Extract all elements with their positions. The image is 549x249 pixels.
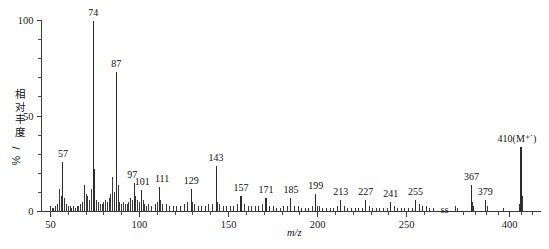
y-axis-title-char: 相 bbox=[15, 88, 25, 100]
peak-label-227: 227 bbox=[358, 186, 373, 197]
y-tick-label: 0 bbox=[28, 206, 33, 217]
peak-label-157: 157 bbox=[234, 182, 249, 193]
peak-label-87: 87 bbox=[111, 58, 121, 69]
peak-label-143: 143 bbox=[209, 152, 224, 163]
axis-break-symbol: ѕѕ bbox=[440, 204, 448, 215]
x-tick-label: 50 bbox=[45, 219, 56, 230]
y-tick-label: 100 bbox=[18, 15, 34, 26]
peak-label-101: 101 bbox=[135, 176, 150, 187]
peak-label-74: 74 bbox=[88, 7, 98, 18]
peak-label-111: 111 bbox=[155, 173, 169, 184]
y-axis-title-char: 对 bbox=[15, 101, 26, 113]
y-axis-title-char: 丰 bbox=[15, 113, 25, 125]
x-tick-label: 250 bbox=[399, 219, 415, 230]
peak-label-213: 213 bbox=[333, 186, 348, 197]
peak-label-129: 129 bbox=[184, 175, 199, 186]
peak-label-171: 171 bbox=[258, 184, 273, 195]
svg-text:ѕѕ: ѕѕ bbox=[440, 204, 448, 215]
peak-label-241: 241 bbox=[383, 188, 398, 199]
x-tick-label: 200 bbox=[310, 219, 326, 230]
y-axis-title-char: 度 bbox=[15, 126, 26, 138]
mass-spectrum-chart: 05010050100150200250400ѕѕ577487971011111… bbox=[0, 0, 549, 249]
y-axis-title-char: / bbox=[10, 146, 22, 149]
x-tick-label: 150 bbox=[221, 219, 237, 230]
peak-label-199: 199 bbox=[308, 180, 323, 191]
peak-label-255: 255 bbox=[408, 186, 423, 197]
peak-label-57: 57 bbox=[58, 148, 68, 159]
x-tick-label: 400 bbox=[502, 219, 518, 230]
y-axis-title-char: % bbox=[10, 156, 22, 165]
y-axis-title: 相对丰度/% bbox=[10, 88, 26, 165]
peak-label-410: 410(M⁺˙) bbox=[498, 133, 537, 145]
peak-label-367: 367 bbox=[464, 171, 479, 182]
peak-label-379: 379 bbox=[478, 186, 493, 197]
peak-label-185: 185 bbox=[283, 184, 298, 195]
x-tick-label: 100 bbox=[132, 219, 148, 230]
x-axis-title: m/z bbox=[287, 227, 302, 238]
spectrum-plot: 05010050100150200250400ѕѕ577487971011111… bbox=[0, 0, 549, 249]
